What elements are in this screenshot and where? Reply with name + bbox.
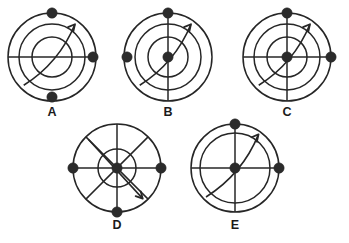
right-dot: [274, 163, 284, 173]
top-dot: [282, 8, 292, 18]
center-dot: [230, 163, 240, 173]
diagram-label-b: B: [153, 106, 183, 119]
diagram-label-d: D: [102, 219, 132, 232]
top-dot: [47, 8, 57, 18]
top-dot: [230, 119, 240, 129]
left-dot: [68, 163, 78, 173]
orbit-diagram-figure: [0, 0, 349, 243]
right-dot: [156, 163, 166, 173]
right-dot: [88, 52, 98, 62]
diagram-label-c: C: [272, 106, 302, 119]
left-dot: [122, 52, 132, 62]
diagram-label-a: A: [37, 106, 67, 119]
center-dot: [163, 52, 173, 62]
diagram-label-e: E: [220, 219, 250, 232]
center-dot: [282, 52, 292, 62]
center-dot: [112, 163, 122, 173]
bottom-dot: [112, 207, 122, 217]
top-dot: [163, 8, 173, 18]
bottom-dot: [47, 92, 57, 102]
right-dot: [326, 52, 336, 62]
